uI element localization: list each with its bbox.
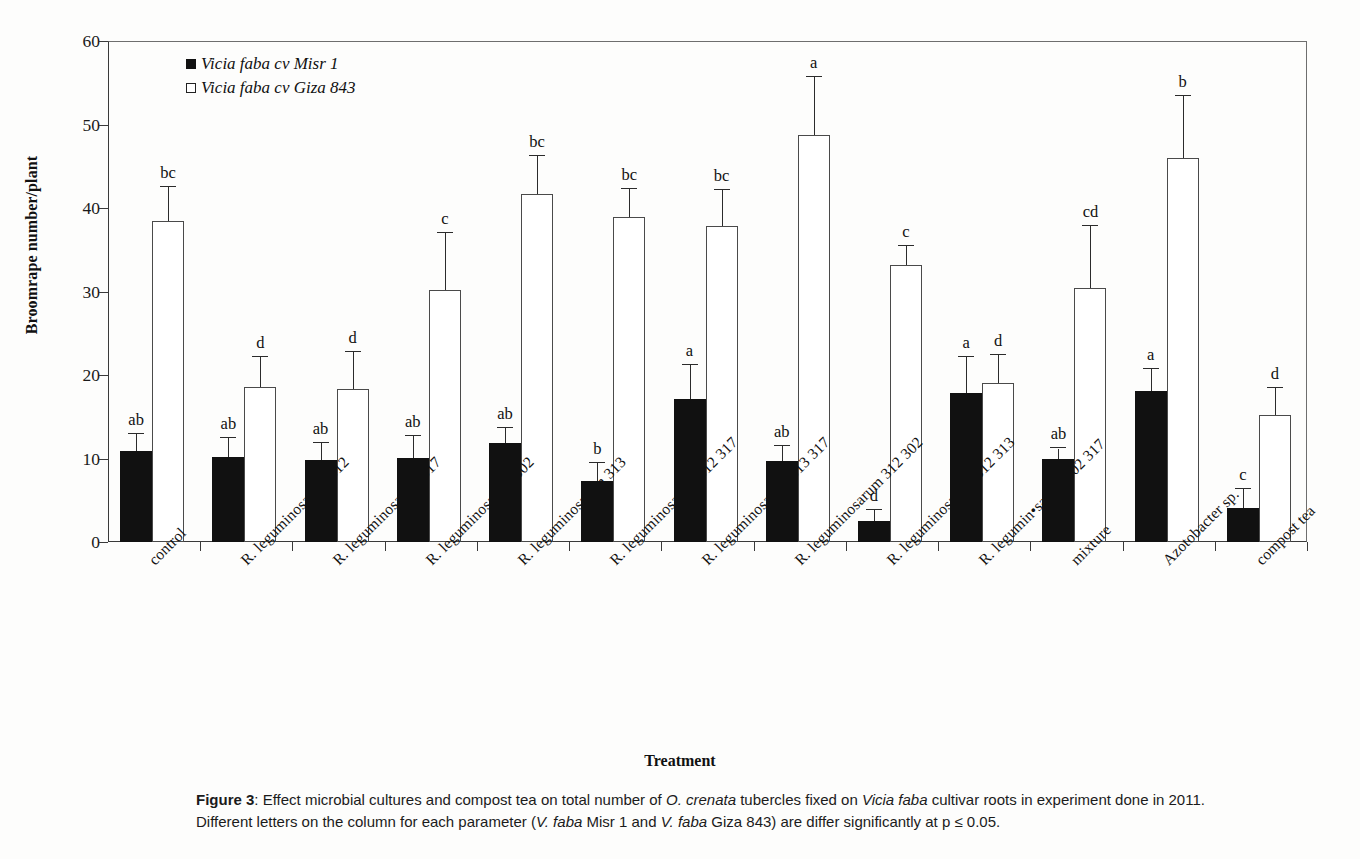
error-bar-cap: [1050, 447, 1066, 448]
error-bar-whisker: [998, 355, 999, 383]
x-tick-mark: [938, 542, 939, 551]
y-tick-mark-30: [99, 292, 108, 293]
x-tick-mark: [385, 542, 386, 551]
bar-misr-1: [858, 521, 890, 542]
error-bar-whisker: [413, 436, 414, 458]
y-tick-mark-10: [99, 459, 108, 460]
x-tick-mark: [1030, 542, 1031, 551]
error-bar-whisker: [782, 446, 783, 461]
error-bar-cap: [589, 462, 605, 463]
error-bar-cap: [252, 356, 268, 357]
caption-text-2b: Misr 1 and: [582, 813, 660, 830]
significance-letter: bc: [714, 166, 730, 186]
legend-item-misr-1: Vicia faba cv Misr 1: [186, 52, 356, 76]
significance-letter: ab: [405, 412, 421, 432]
error-bar-whisker: [966, 357, 967, 392]
caption-italic-o-crenata: O. crenata: [666, 791, 736, 808]
error-bar-whisker: [1151, 369, 1152, 391]
y-tick-mark-20: [99, 375, 108, 376]
bar-giza-843: [798, 135, 830, 542]
error-bar-cap: [806, 76, 822, 77]
error-bar-whisker: [321, 443, 322, 461]
error-bar-whisker: [505, 428, 506, 443]
legend-item-giza-843: Vicia faba cv Giza 843: [186, 76, 356, 100]
error-bar-cap: [313, 442, 329, 443]
significance-letter: b: [593, 439, 601, 459]
bar-misr-1: [120, 451, 152, 542]
error-bar-cap: [774, 445, 790, 446]
significance-letter: d: [348, 328, 356, 348]
error-bar-cap: [714, 189, 730, 190]
caption-text-1a: : Effect microbial cultures and compost …: [254, 791, 666, 808]
error-bar-cap: [405, 435, 421, 436]
bar-giza-843: [613, 217, 645, 542]
error-bar-whisker: [537, 156, 538, 194]
caption-text-2a: Different letters on the column for each…: [196, 813, 536, 830]
caption-text-1b: tubercles fixed on: [736, 791, 862, 808]
x-tick-mark: [754, 542, 755, 551]
bar-giza-843: [429, 290, 461, 542]
error-bar-cap: [958, 356, 974, 357]
significance-letter: d: [994, 331, 1002, 351]
y-axis-title: Broomrape number/plant: [23, 45, 41, 445]
figure-caption: Figure 3: Effect microbial cultures and …: [196, 789, 1246, 833]
y-tick-mark-60: [99, 41, 108, 42]
x-tick-mark: [661, 542, 662, 551]
significance-letter: ab: [313, 419, 329, 439]
error-bar-cap: [128, 433, 144, 434]
bar-misr-1: [212, 457, 244, 542]
error-bar-cap: [497, 427, 513, 428]
error-bar-whisker: [814, 77, 815, 135]
bar-giza-843: [244, 387, 276, 542]
bar-giza-843: [890, 265, 922, 542]
error-bar-whisker: [1058, 449, 1059, 460]
significance-letter: ab: [774, 422, 790, 442]
y-tick-label-60: 60: [44, 31, 100, 52]
error-bar-whisker: [1183, 96, 1184, 158]
bar-misr-1: [1227, 508, 1259, 542]
bar-giza-843: [1074, 288, 1106, 542]
legend: Vicia faba cv Misr 1 Vicia faba cv Giza …: [186, 52, 356, 100]
error-bar-cap: [621, 188, 637, 189]
error-bar-cap: [866, 509, 882, 510]
bar-giza-843: [1167, 158, 1199, 542]
error-bar-cap: [898, 245, 914, 246]
bar-giza-843: [706, 226, 738, 542]
error-bar-cap: [1082, 225, 1098, 226]
significance-letter: a: [1147, 345, 1154, 365]
error-bar-whisker: [445, 233, 446, 290]
figure-3-chart: Broomrape number/plant 0102030405060 abb…: [0, 0, 1360, 780]
legend-label-giza-843: Vicia faba cv Giza 843: [201, 76, 356, 100]
significance-letter: c: [1239, 465, 1246, 485]
error-bar-cap: [990, 354, 1006, 355]
caption-italic-vicia-faba: Vicia faba: [862, 791, 928, 808]
y-tick-mark-0: [99, 542, 108, 543]
x-tick-mark: [1215, 542, 1216, 551]
x-tick-mark: [200, 542, 201, 551]
error-bar-whisker: [906, 246, 907, 264]
y-tick-label-30: 30: [44, 281, 100, 302]
legend-label-misr-1: Vicia faba cv Misr 1: [201, 52, 339, 76]
error-bar-whisker: [136, 434, 137, 451]
significance-letter: b: [1179, 72, 1187, 92]
significance-letter: ab: [497, 404, 513, 424]
error-bar-whisker: [260, 357, 261, 386]
error-bar-whisker: [629, 189, 630, 217]
bar-giza-843: [521, 194, 553, 542]
significance-letter: cd: [1083, 202, 1099, 222]
significance-letter: c: [441, 209, 448, 229]
legend-swatch-filled-icon: [186, 59, 196, 69]
error-bar-cap: [529, 155, 545, 156]
y-tick-mark-40: [99, 208, 108, 209]
y-tick-label-10: 10: [44, 448, 100, 469]
significance-letter: c: [902, 222, 909, 242]
error-bar-whisker: [228, 438, 229, 456]
error-bar-cap: [437, 232, 453, 233]
error-bar-whisker: [1243, 489, 1244, 508]
x-tick-mark: [292, 542, 293, 551]
x-tick-mark: [846, 542, 847, 551]
legend-swatch-hollow-icon: [186, 83, 196, 93]
y-tick-label-50: 50: [44, 114, 100, 135]
x-tick-mark: [1307, 542, 1308, 551]
error-bar-whisker: [690, 365, 691, 399]
